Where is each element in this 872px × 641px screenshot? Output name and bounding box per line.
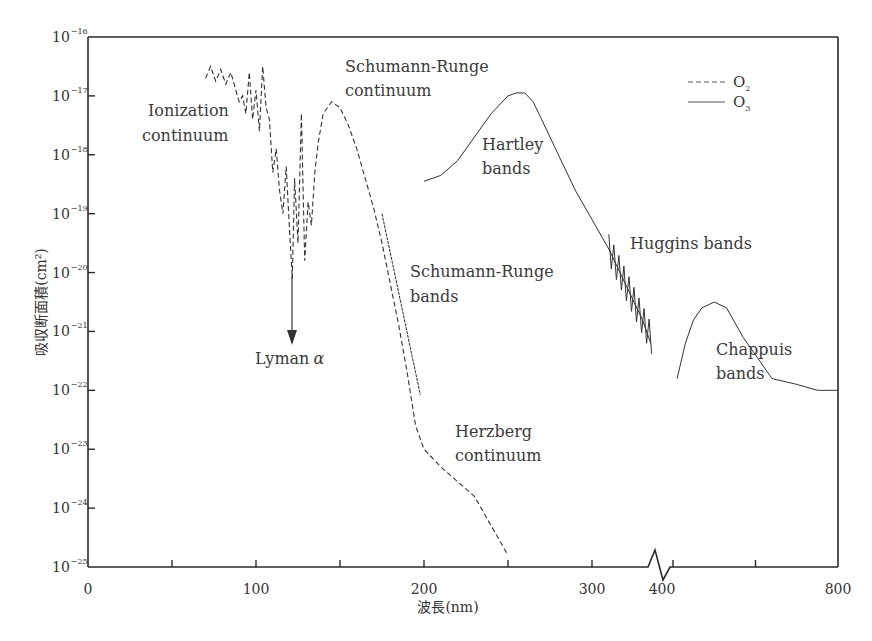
x-tick-label: 300: [579, 581, 606, 597]
o2-curve: [206, 66, 508, 555]
x-tick-label: 800: [825, 581, 852, 597]
x-axis-ticks: 0100200300400800: [84, 560, 852, 597]
legend-o2-label: O2: [733, 73, 750, 93]
lyman-alpha-arrow: [287, 276, 297, 345]
annotation-chappuis-line2: bands: [716, 364, 765, 383]
x-tick-label: 400: [649, 581, 676, 597]
y-tick-label: 10−21: [52, 321, 88, 339]
y-tick-label: 10−20: [52, 263, 88, 281]
annotation-lyman-alpha: Lymanα: [255, 349, 324, 368]
y-tick-label: 10−18: [52, 145, 88, 163]
x-axis-title: 波長(nm): [417, 599, 478, 615]
x-axis-line-with-break: [88, 550, 838, 580]
y-tick-label: 10−16: [52, 27, 88, 45]
legend: O2 O3: [688, 73, 750, 113]
arrow-head-icon: [287, 330, 297, 345]
x-tick-label: 100: [243, 581, 270, 597]
annotation-hartley-line1: Hartley: [482, 135, 543, 154]
annotation-sr-continuum-line1: Schumann-Runge: [345, 57, 489, 76]
y-tick-label: 10−19: [52, 204, 88, 222]
annotation-sr-bands-line2: bands: [410, 287, 459, 306]
annotation-herzberg-line1: Herzberg: [455, 422, 532, 441]
annotation-hartley-line2: bands: [482, 159, 531, 178]
y-tick-label: 10−17: [52, 86, 88, 104]
y-tick-label: 10−24: [52, 498, 88, 516]
annotation-ionization-line2: continuum: [142, 126, 229, 145]
legend-o3-label: O3: [733, 93, 750, 113]
y-tick-label: 10−22: [52, 380, 88, 398]
lyman-greek: α: [313, 349, 324, 368]
annotation-herzberg-line2: continuum: [455, 446, 542, 465]
y-axis-title: 吸収断面積(cm²): [33, 248, 49, 356]
annotation-sr-continuum-line2: continuum: [345, 81, 432, 100]
y-tick-label: 10−25: [52, 557, 88, 575]
annotation-huggins: Huggins bands: [630, 234, 752, 253]
x-tick-label: 200: [411, 581, 438, 597]
annotation-ionization-line1: Ionization: [148, 101, 229, 120]
absorption-cross-section-chart: 10−1610−1710−1810−1910−2010−2110−2210−23…: [0, 0, 872, 641]
annotation-sr-bands-line1: Schumann-Runge: [410, 262, 554, 281]
annotation-chappuis-line1: Chappuis: [716, 340, 792, 359]
x-tick-label: 0: [84, 581, 93, 597]
y-tick-label: 10−23: [52, 439, 88, 457]
lyman-text: Lyman: [255, 349, 309, 368]
